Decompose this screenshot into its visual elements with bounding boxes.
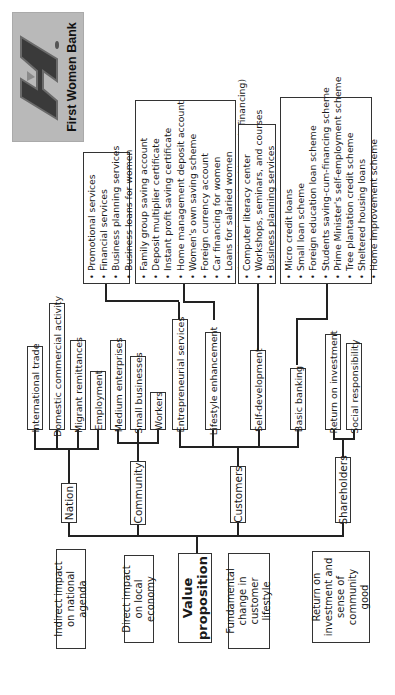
list-item: Women's own saving scheme (187, 105, 199, 279)
list-item: Instant profit saving certificate (162, 105, 174, 279)
list-item: Workshops, seminars, and courses (253, 129, 265, 279)
node-domestic-commercial-activity: Domestic commercial activity (49, 303, 65, 430)
node-customers: Customers (230, 466, 246, 523)
list-item: Financial services (98, 157, 110, 279)
node-community: Community (130, 461, 146, 525)
node-return-on-investment: Return on investment (325, 334, 341, 430)
list-item: Small loan scheme (295, 102, 307, 279)
node-employment: Employment (90, 371, 106, 430)
list-item: Home management deposit account (175, 105, 187, 279)
outcome-customer-lifestyle: Fundamental change in customer lifestyle (228, 553, 270, 649)
outcome-return-and-community-good: Return on investment and sense of commun… (312, 551, 370, 643)
node-basic-banking: Basic banking (290, 368, 306, 430)
list-item: Foreign education loan scheme (307, 102, 319, 279)
list-item: Promotional services (86, 157, 98, 279)
list-item: Business loans for women (123, 157, 135, 279)
list-item: Sheltered housing loans (356, 102, 368, 279)
list-item: Loans for salaried women (223, 105, 235, 279)
list-item: Students saving-cum-financing scheme (320, 102, 332, 279)
list-item: Family group saving account (138, 105, 150, 279)
root-value-proposition: Value proposition (178, 553, 212, 643)
list-item: Foreign currency account (199, 105, 211, 279)
node-medium-enterprises: Medium enterprises (110, 340, 126, 430)
first-women-bank-logo-icon (13, 13, 65, 141)
node-migrant-remittances: Migrant remittances (70, 340, 86, 430)
node-lifestyle-enhancement: Lifestyle enhancement (205, 332, 221, 430)
node-shareholders: Shareholders (335, 457, 351, 523)
list-item: Home improvement scheme (368, 102, 380, 279)
list-item: Tree plantation credit scheme (344, 102, 356, 279)
logo-text: First Women Bank (65, 13, 79, 141)
basic-banking-services-list: Micro credit loans Small loan scheme For… (280, 97, 372, 284)
list-item: Micro credit loans (283, 102, 295, 279)
entrepreneurial-services-list: Promotional services Financial services … (83, 152, 130, 284)
outcome-national-agenda: Indirect impact on national agenda (56, 549, 86, 649)
list-item: Car financing for women (211, 105, 223, 279)
node-small-businesses: Small businesses (130, 356, 146, 430)
node-international-trade: International trade (27, 346, 43, 430)
outcome-local-economy: Direct impact on local economy (124, 555, 154, 643)
list-item: Computer literacy center (241, 129, 253, 279)
value-proposition-diagram: First Women Bank Promotional services Fi… (0, 0, 395, 695)
node-nation: Nation (61, 483, 77, 523)
list-item: Prime Minister's self-employment scheme (332, 102, 344, 279)
self-development-services-list: Computer literacy center Workshops, semi… (238, 124, 276, 284)
lifestyle-services-list: Family group saving account Deposit mult… (135, 100, 236, 284)
node-self-development: Self-development (250, 350, 266, 430)
logo: First Women Bank (12, 12, 84, 142)
list-item: Business planning services (110, 157, 122, 279)
list-item: Deposit multiplier certificate (150, 105, 162, 279)
node-workers: Workers (150, 392, 166, 430)
node-entrepreneurial-services: Entrepreneurial services (172, 319, 188, 430)
node-social-responsibility: Social responsibility (346, 343, 362, 430)
list-item: Business planning services (265, 129, 277, 279)
